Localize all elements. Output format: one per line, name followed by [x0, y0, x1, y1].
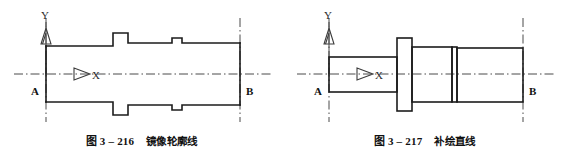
figure-3-216-drawing: X Y A B — [0, 0, 283, 132]
end-body — [457, 48, 523, 102]
x-axis-label: X — [92, 69, 100, 81]
figure-3-216-caption: 图 3 – 216镜像轮廓线 — [0, 132, 283, 148]
y-axis-label: Y — [324, 9, 332, 21]
endpoint-label-b: B — [246, 85, 254, 97]
caption-title: 镜像轮廓线 — [146, 135, 197, 147]
figure-3-216: X Y A B 图 3 – 216镜像轮廓线 — [0, 0, 283, 161]
caption-number: 图 3 – 217 — [374, 135, 423, 147]
profile-upper-outline — [46, 33, 240, 46]
endpoint-label-a: A — [314, 85, 322, 97]
caption-number: 图 3 – 216 — [86, 135, 135, 147]
y-axis-label: Y — [41, 9, 49, 21]
figure-3-217-caption: 图 3 – 217补绘直线 — [283, 132, 566, 148]
endpoint-label-a: A — [31, 85, 39, 97]
drawing-sheet: X Y A B 图 3 – 216镜像轮廓线 — [0, 0, 566, 161]
x-axis-label: X — [375, 69, 383, 81]
figure-3-217: X Y A B 图 3 – 217补绘直线 — [283, 0, 566, 161]
endpoint-label-b: B — [529, 85, 537, 97]
figure-3-217-drawing: X Y A B — [283, 0, 566, 132]
caption-title: 补绘直线 — [434, 135, 475, 147]
profile-lower-outline — [46, 102, 240, 115]
